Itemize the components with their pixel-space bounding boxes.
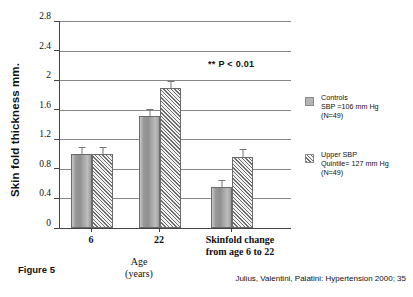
legend-label-upper-sbp: Upper SBP Quintile= 127 mm Hg (N=49) [321,150,389,177]
bar-controls-age-22[interactable] [139,116,160,228]
y-tick-label: 0.4 [39,188,51,198]
y-tick-label: 0 [46,218,51,228]
x-axis-title-line1: Age [99,256,179,268]
legend: Controls SBP =106 mm Hg (N=49) Upper SBP… [305,93,410,207]
bar-controls-change[interactable] [211,187,232,228]
x-label-age-22: 22 [129,234,189,246]
y-axis-ticks: 2.8 2.4 2 1.6 1.2 0.8 0.4 0 [0,21,59,228]
x-label-age-6: 6 [61,234,121,246]
x-label-line1: 22 [129,234,189,246]
legend-controls-line2: SBP =106 mm Hg [321,102,379,111]
legend-label-controls: Controls SBP =106 mm Hg (N=49) [321,93,379,120]
x-label-line1: Skinfold change [193,234,287,246]
significance-annotation: ** P < 0.01 [208,59,254,69]
error-bar [81,147,82,154]
bar-wrap-upper-sbp-change [232,21,253,228]
figure-label: Figure 5 [18,264,55,275]
bar-wrap-controls-age-6 [71,21,92,228]
x-tick-age-22 [159,228,160,232]
bar-group-skinfold-change [210,21,254,228]
x-tick-age-6 [91,228,92,232]
bar-wrap-upper-sbp-age-6 [92,21,113,228]
error-bar [149,109,150,116]
bar-wrap-controls-change [211,21,232,228]
legend-swatch-hatch-icon [305,154,314,163]
citation-text: Julius, Valentini, Palatini: Hypertensio… [235,274,406,283]
error-bar [221,180,222,187]
y-tick-label: 1.6 [39,100,51,110]
error-bar [242,149,243,157]
bar-wrap-upper-sbp-age-22 [160,21,181,228]
legend-upper-sbp-line2: Quintile= 127 mm Hg [321,159,389,168]
x-label-skinfold-change: Skinfold change from age 6 to 22 [193,234,287,257]
x-label-line2: from age 6 to 22 [193,246,287,258]
bar-group-age-22 [138,21,182,228]
x-tick-skinfold-change [231,228,232,232]
bar-controls-age-6[interactable] [71,154,92,228]
bar-upper-sbp-age-22[interactable] [160,88,181,229]
legend-controls-line3: (N=49) [321,111,379,120]
y-tick-label: 2.4 [39,41,51,51]
legend-upper-sbp-line1: Upper SBP [321,150,389,159]
bar-upper-sbp-age-6[interactable] [92,154,113,228]
y-tick-label: 2 [46,70,51,80]
error-bar [102,147,103,154]
x-axis-title: Age (years) [99,256,179,279]
x-label-line1: 6 [61,234,121,246]
bar-wrap-controls-age-22 [139,21,160,228]
legend-entry-upper-sbp[interactable]: Upper SBP Quintile= 127 mm Hg (N=49) [305,150,410,177]
error-bar [170,81,171,88]
y-tick-label: 1.2 [39,129,51,139]
legend-controls-line1: Controls [321,93,379,102]
x-axis-title-line2: (years) [99,268,179,280]
legend-upper-sbp-line3: (N=49) [321,168,389,177]
y-tick-label: 0.8 [39,159,51,169]
y-tick-label: 2.8 [39,11,51,21]
plot-area [59,21,291,229]
bar-upper-sbp-change[interactable] [232,157,253,228]
legend-entry-controls[interactable]: Controls SBP =106 mm Hg (N=49) [305,93,410,120]
legend-swatch-solid-icon [305,97,314,106]
bar-group-age-6 [70,21,114,228]
